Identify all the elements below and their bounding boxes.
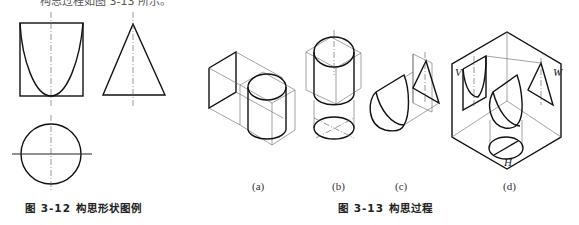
side-view-drawing — [103, 12, 165, 106]
plane-label-h: H — [503, 156, 513, 168]
subfigure-a-drawing — [209, 52, 295, 145]
subfigure-b-drawing — [306, 30, 361, 139]
plane-label-v: V — [455, 66, 463, 78]
subfigure-c-drawing — [370, 52, 439, 131]
subfigure-label-c: (c) — [395, 180, 407, 192]
subfigure-label-b: (b) — [332, 180, 345, 192]
figure-3-12-caption: 图 3-12 构思形状图例 — [25, 200, 142, 215]
subfigure-label-d: (d) — [503, 180, 516, 192]
plane-label-w: W — [553, 66, 563, 78]
technical-drawings: V W H — [0, 0, 579, 225]
front-view-drawing — [20, 12, 83, 106]
subfigure-label-a: (a) — [252, 180, 264, 192]
top-view-drawing — [12, 115, 92, 192]
figure-3-13-caption: 图 3-13 构思过程 — [338, 200, 433, 215]
subfigure-d-drawing: V W H — [452, 32, 563, 169]
